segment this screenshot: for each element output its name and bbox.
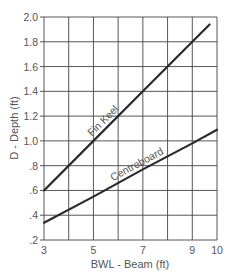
x-tick-label: 9	[189, 244, 195, 256]
y-tick-label: .4	[29, 209, 38, 221]
y-tick-label: 1.4	[23, 85, 38, 97]
grid	[40, 17, 217, 240]
x-tick-label: 7	[140, 244, 146, 256]
x-tick-label: 3	[41, 244, 47, 256]
series-label-centreboard: Centreboard	[108, 145, 165, 183]
x-tick-label: 10	[211, 244, 223, 256]
series-labels: Fin KeelCentreboard	[85, 102, 166, 182]
x-axis-ticks: 357910	[41, 244, 223, 256]
y-tick-label: 1.2	[23, 110, 38, 122]
chart-canvas: .2.4.6.81.01.21.41.61.82.0 357910 Fin Ke…	[0, 0, 233, 275]
y-tick-label: 2.0	[23, 11, 38, 23]
depth-vs-beam-chart: .2.4.6.81.01.21.41.61.82.0 357910 Fin Ke…	[0, 0, 233, 275]
series-line-centreboard	[44, 130, 217, 223]
y-axis-label: D - Depth (ft)	[8, 96, 20, 160]
y-tick-label: 1.6	[23, 61, 38, 73]
y-tick-label: .6	[29, 184, 38, 196]
y-tick-label: .8	[29, 160, 38, 172]
x-tick-label: 5	[91, 244, 97, 256]
series-lines	[44, 24, 217, 222]
y-tick-label: 1.0	[23, 135, 38, 147]
y-tick-label: 1.8	[23, 36, 38, 48]
y-tick-label: .2	[29, 234, 38, 246]
x-axis-label: BWL - Beam (ft)	[91, 258, 169, 270]
y-axis-ticks: .2.4.6.81.01.21.41.61.82.0	[23, 11, 38, 246]
